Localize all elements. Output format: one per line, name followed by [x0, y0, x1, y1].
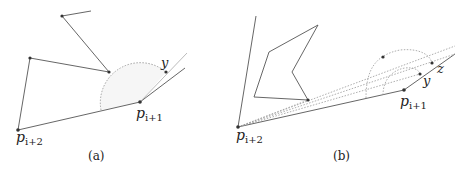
- point-p-i-plus-1: [402, 88, 406, 92]
- point: [381, 55, 384, 58]
- point-y: [164, 70, 167, 73]
- long-edge: [238, 16, 256, 127]
- label-p-i-plus-1: pi+1: [136, 105, 163, 123]
- label-y: y: [160, 55, 169, 70]
- point-z: [430, 61, 433, 64]
- point-p-i-plus-1: [138, 100, 142, 104]
- semicircle-fill: [100, 63, 166, 110]
- point-y: [418, 72, 421, 75]
- panel-b: z y pi+1 pi+2 (b): [236, 16, 455, 163]
- panel-a: y pi+1 pi+2 (a): [16, 11, 187, 163]
- figure: y pi+1 pi+2 (a) z y pi+1 pi+2 (b): [0, 0, 471, 171]
- label-p-i-plus-1: pi+1: [400, 93, 427, 111]
- point: [28, 56, 31, 59]
- caption-a: (a): [88, 149, 105, 163]
- point: [60, 14, 63, 17]
- caption-b: (b): [333, 149, 350, 163]
- dotted-ray-3: [238, 74, 420, 127]
- label-y: y: [422, 73, 431, 88]
- point: [107, 70, 110, 73]
- label-p-i-plus-2: pi+2: [16, 129, 43, 147]
- dotted-ray-2: [238, 54, 455, 127]
- polygon-chain: [254, 25, 318, 100]
- label-p-i-plus-2: pi+2: [236, 127, 263, 145]
- label-z: z: [436, 61, 444, 76]
- point: [306, 98, 309, 101]
